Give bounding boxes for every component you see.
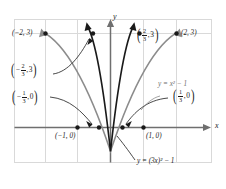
- y-value: 3: [29, 66, 33, 73]
- point-label-neg-two-thirds-3: ( − 2 3 , 3 ): [10, 63, 38, 77]
- fraction-one-third: 1 3: [178, 89, 183, 103]
- minus-sign: −: [17, 93, 21, 100]
- close-paren: ): [35, 92, 39, 103]
- point-label-neg-one-third-0: ( − 1 3 , 0 ): [11, 90, 39, 104]
- numerator: 1: [178, 89, 183, 95]
- open-paren: (: [173, 91, 177, 102]
- open-paren: (: [12, 92, 16, 103]
- point-label-pos-two-thirds-3: ( 2 3 , 3 ): [136, 28, 160, 42]
- numerator: 2: [142, 28, 147, 34]
- close-paren: ): [191, 91, 195, 102]
- point-label-neg2-3: (−2, 3): [12, 30, 32, 37]
- point-pos1-0: [141, 125, 145, 129]
- point-pos-one-third-0: [120, 125, 124, 129]
- point-label-pos-one-third-0: ( 1 3 , 0 ): [172, 89, 196, 103]
- close-paren: ): [155, 30, 159, 41]
- y-value: 3: [150, 31, 154, 38]
- point-neg2-3: [43, 31, 47, 35]
- open-paren: (: [11, 65, 15, 76]
- point-neg-one-third-0: [97, 125, 101, 129]
- denominator: 3: [142, 36, 147, 42]
- equation-label-shrunk: y = (3x)² − 1: [137, 158, 174, 165]
- numerator: 2: [21, 63, 26, 69]
- point-label-pos1-0: (1, 0): [146, 133, 162, 140]
- y-value: 0: [186, 92, 190, 99]
- minus-sign: −: [16, 66, 20, 73]
- numerator: 1: [22, 90, 27, 96]
- graph-figure: x y (−2, 3) (2, 3) (−1, 0) (1, 0) ( − 2 …: [0, 0, 226, 189]
- equation-label-parent: y = x² − 1: [158, 81, 187, 88]
- point-neg1-0: [75, 125, 79, 129]
- point-neg-two-thirds-3: [91, 31, 95, 35]
- point-pos2-3: [174, 31, 178, 35]
- close-paren: ): [34, 65, 38, 76]
- denominator: 3: [22, 98, 27, 104]
- y-value: 0: [30, 93, 34, 100]
- point-label-neg1-0: (−1, 0): [55, 133, 75, 140]
- x-axis-label: x: [215, 122, 219, 130]
- y-axis-label: y: [113, 13, 117, 21]
- fraction-two-thirds: 2 3: [21, 63, 26, 77]
- fraction-one-third: 1 3: [22, 90, 27, 104]
- denominator: 3: [21, 71, 26, 77]
- fraction-two-thirds: 2 3: [142, 28, 147, 42]
- denominator: 3: [178, 97, 183, 103]
- open-paren: (: [137, 30, 141, 41]
- point-label-pos2-3: (2, 3): [181, 30, 197, 37]
